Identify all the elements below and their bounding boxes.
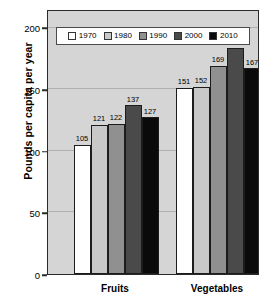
- legend-label: 2010: [220, 32, 238, 40]
- legend-swatch-icon: [104, 32, 112, 40]
- bar-slot: 183: [227, 11, 244, 274]
- bar-slot: 121: [91, 11, 108, 274]
- y-tick-label: 100: [24, 146, 40, 157]
- bar-group-fruits: 105121122137127: [74, 11, 159, 274]
- bar-vegetables-1970: [176, 88, 193, 274]
- legend-label: 1990: [149, 32, 167, 40]
- bar-group-vegetables: 151152169183167: [176, 11, 260, 274]
- y-tick-label: 0: [35, 270, 40, 281]
- bar-slot: 127: [142, 11, 159, 274]
- x-label-vegetables: Vegetables: [191, 283, 243, 294]
- bar-slot: 167: [244, 11, 260, 274]
- y-axis-ticks: 050100150200: [0, 10, 47, 275]
- bar-vegetables-1990: [210, 66, 227, 274]
- bar-vegetables-2010: [244, 68, 260, 274]
- bar-value-label: 122: [110, 114, 123, 122]
- bar-fruits-2010: [142, 117, 159, 274]
- bar-slot: 169: [210, 11, 227, 274]
- legend-item-1990: 1990: [139, 32, 167, 40]
- bar-value-label: 105: [76, 135, 89, 143]
- legend-swatch-icon: [209, 32, 217, 40]
- x-label-fruits: Fruits: [101, 283, 129, 294]
- bar-vegetables-1980: [193, 87, 210, 274]
- bar-fruits-1990: [108, 124, 125, 274]
- bar-value-label: 167: [246, 59, 259, 67]
- legend-label: 1970: [79, 32, 97, 40]
- legend-item-1980: 1980: [104, 32, 132, 40]
- plot-area: 105121122137127151152169183167 197019801…: [47, 10, 259, 275]
- legend-label: 1980: [114, 32, 132, 40]
- y-tick-label: 50: [29, 208, 40, 219]
- bar-chart: Pounds per capita per year 050100150200 …: [0, 0, 267, 306]
- x-axis-labels: FruitsVegetables: [47, 281, 259, 301]
- y-tick-label: 150: [24, 85, 40, 96]
- bar-fruits-1970: [74, 145, 91, 274]
- legend-swatch-icon: [68, 32, 76, 40]
- bar-groups: 105121122137127151152169183167: [48, 11, 258, 274]
- bar-vegetables-2000: [227, 48, 244, 274]
- bar-value-label: 127: [144, 108, 157, 116]
- bar-value-label: 169: [212, 56, 225, 64]
- bar-value-label: 152: [195, 77, 208, 85]
- bar-fruits-1980: [91, 125, 108, 274]
- legend-swatch-icon: [174, 32, 182, 40]
- bar-value-label: 151: [178, 78, 191, 86]
- bar-value-label: 121: [93, 115, 106, 123]
- y-tick-label: 200: [24, 23, 40, 34]
- legend: 19701980199020002010: [56, 27, 250, 45]
- legend-label: 2000: [185, 32, 203, 40]
- bar-slot: 122: [108, 11, 125, 274]
- bar-slot: 151: [176, 11, 193, 274]
- legend-swatch-icon: [139, 32, 147, 40]
- bar-slot: 137: [125, 11, 142, 274]
- legend-item-2000: 2000: [174, 32, 202, 40]
- legend-item-1970: 1970: [68, 32, 96, 40]
- bar-value-label: 137: [127, 96, 140, 104]
- legend-item-2010: 2010: [209, 32, 237, 40]
- bar-slot: 105: [74, 11, 91, 274]
- bar-slot: 152: [193, 11, 210, 274]
- bar-fruits-2000: [125, 105, 142, 274]
